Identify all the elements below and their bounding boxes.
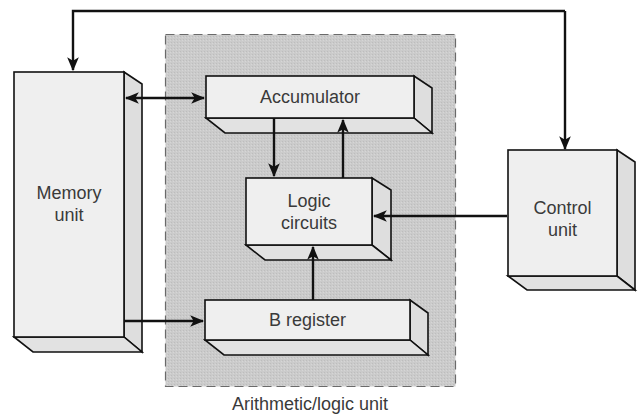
memory-unit-box[interactable] — [14, 72, 142, 352]
logic-circuits-box[interactable] — [246, 178, 391, 260]
b-register-box[interactable] — [205, 300, 428, 355]
alu-caption: Arithmetic/logic unit — [165, 394, 455, 415]
accumulator-box[interactable] — [206, 76, 432, 133]
control-unit-box[interactable] — [508, 150, 635, 290]
